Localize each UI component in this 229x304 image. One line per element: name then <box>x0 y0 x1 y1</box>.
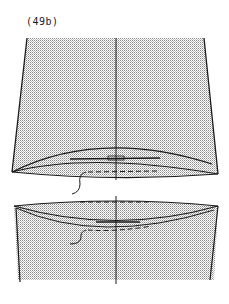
upper-piece <box>12 38 218 180</box>
pattern-diagram <box>0 0 229 304</box>
lower-piece <box>14 196 218 284</box>
